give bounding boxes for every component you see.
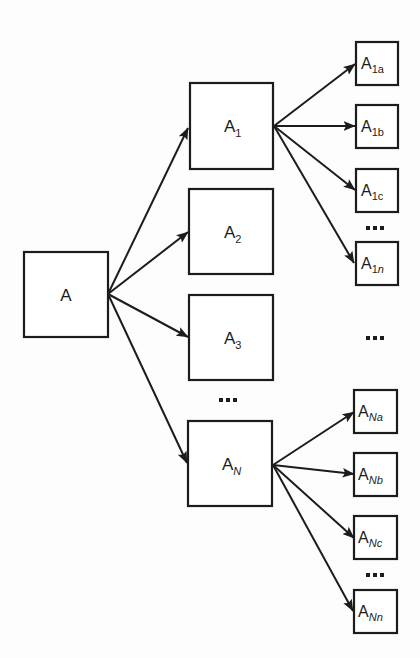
edge-an-anc bbox=[273, 465, 354, 538]
ellipsis-an-children bbox=[366, 573, 384, 577]
hierarchy-diagram: A A1 A2 A3 AN A1a A1b A1c A1n bbox=[0, 0, 420, 658]
edge-a-a1 bbox=[108, 128, 188, 294]
node-a3: A3 bbox=[189, 295, 273, 380]
node-anc: ANc bbox=[354, 516, 397, 559]
edge-an-ann bbox=[273, 465, 353, 611]
edge-an-ana bbox=[273, 412, 354, 465]
node-ann: ANn bbox=[354, 590, 397, 633]
node-a1a: A1a bbox=[356, 42, 398, 85]
ellipsis-level1 bbox=[219, 398, 237, 402]
edge-a1-a1n bbox=[274, 126, 354, 263]
edges-root bbox=[108, 128, 188, 463]
node-a1n: A1n bbox=[356, 242, 398, 285]
node-anb: ANb bbox=[354, 453, 397, 496]
edges-an bbox=[273, 412, 354, 611]
edge-an-anb bbox=[273, 465, 354, 474]
node-ana: ANa bbox=[354, 390, 397, 433]
ellipsis-level2-groups bbox=[366, 336, 384, 340]
node-an: AN bbox=[188, 421, 272, 506]
edge-a1-a1a bbox=[274, 64, 355, 126]
node-a1b: A1b bbox=[356, 105, 398, 148]
node-a1c: A1c bbox=[356, 169, 398, 212]
node-a-label: A bbox=[60, 286, 72, 305]
edge-a1-a1c bbox=[274, 126, 355, 190]
edges-a1 bbox=[274, 64, 355, 263]
node-a: A bbox=[24, 252, 108, 337]
edge-a-a2 bbox=[108, 232, 188, 294]
node-a2: A2 bbox=[189, 189, 273, 274]
ellipsis-a1-children bbox=[366, 226, 384, 230]
node-a1: A1 bbox=[190, 83, 273, 169]
edge-a-a3 bbox=[108, 294, 188, 337]
edge-a-an bbox=[108, 294, 187, 463]
